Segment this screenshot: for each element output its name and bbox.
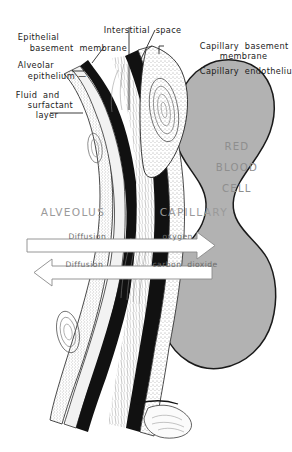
label-capillary-endothelium: Capillary endothelium bbox=[188, 56, 292, 87]
flow-label-oxygen-process: Diffusion bbox=[57, 223, 106, 250]
flow-label-oxygen-process-text: Diffusion bbox=[68, 232, 106, 241]
region-label-capillary-text: CAPILLARY bbox=[160, 206, 228, 218]
label-alveolar-epithelium-dash: — bbox=[75, 71, 87, 81]
flow-label-carbon-dioxide-process: Diffusion bbox=[54, 251, 103, 278]
flow-label-carbon-dioxide-process-text: Diffusion bbox=[65, 260, 103, 269]
label-interstitial-space: Interstitial space bbox=[92, 15, 181, 46]
flow-label-carbon-dioxide-substance: carbon dioxide bbox=[141, 251, 218, 278]
region-label-alveolus-text: ALVEOLUS bbox=[41, 206, 106, 218]
label-interstitial-space-line1: Interstitial space bbox=[104, 25, 182, 35]
flow-label-oxygen-substance-text: oxygen bbox=[162, 232, 192, 241]
flow-label-carbon-dioxide-substance-text: carbon dioxide bbox=[152, 260, 217, 269]
rbc-label-line3-text: CELL bbox=[222, 183, 252, 194]
label-fluid-and-surfactant-layer-line3-wrap: layer bbox=[24, 100, 58, 131]
rbc-label-line3: CELL bbox=[196, 172, 260, 205]
label-fluid-and-surfactant-layer-line3: layer bbox=[36, 110, 58, 120]
label-capillary-endothelium-line1: Capillary endothelium bbox=[200, 66, 292, 76]
diagram-canvas: Epithelial basement membrane Alveolar ep… bbox=[0, 0, 292, 452]
flow-label-oxygen-substance: oxygen bbox=[151, 223, 193, 250]
